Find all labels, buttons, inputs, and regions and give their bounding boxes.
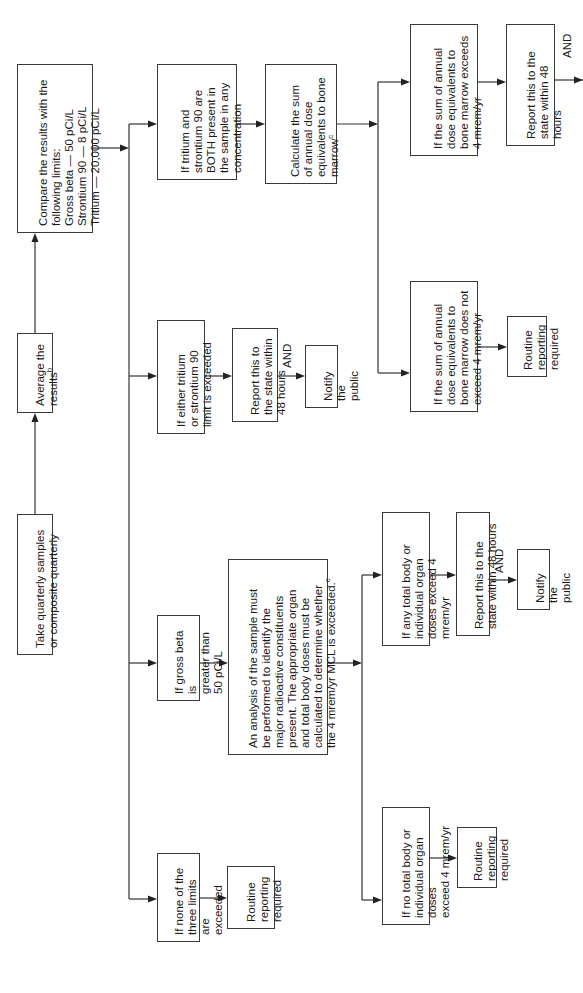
branch-no-total-exceeds-text: If no total body or individual organ dos… <box>400 826 451 918</box>
branch-both-present: If tritium and strontium 90 are BOTH pre… <box>157 64 237 180</box>
branch-bone-not-exceed: If the sum of annual dose equivalents to… <box>410 281 478 412</box>
step-routine-none: Routine reporting required <box>227 866 275 929</box>
branch-either-exceeded-text: If either tritium or strontium 90 limit … <box>175 342 213 427</box>
branch-bone-exceeds-text: If the sum of annual dose equivalents to… <box>432 36 483 149</box>
and-connector-any-total: AND <box>493 549 505 573</box>
step-routine-bone: Routine reporting required <box>507 316 547 377</box>
and-connector-either: AND <box>281 344 293 368</box>
step-report-bone-exceeds: Report this to the state within 48 hours <box>506 24 555 146</box>
flowchart-canvas: Take quarterly samples or composite quar… <box>0 0 583 993</box>
step-routine-no-total-text: Routine reporting required <box>472 836 510 881</box>
step-calculate-sum: Calculate the sum of annual dose equival… <box>265 64 337 184</box>
branch-bone-exceeds: If the sum of annual dose equivalents to… <box>410 24 478 156</box>
step-average: Average the resultsb <box>17 333 53 413</box>
step-report-any-total-text: Report this to the state within 48 hours <box>473 524 498 629</box>
step-analysis-text: An analysis of the sample must be perfor… <box>247 582 337 748</box>
footnote-b: b <box>45 368 54 372</box>
step-report-any-total: Report this to the state within 48 hours <box>456 512 490 636</box>
footnote-c-analysis: c <box>323 578 332 582</box>
and-connector-top-right: AND <box>561 34 573 58</box>
step-take-samples-text: Take quarterly samples or composite quar… <box>34 530 59 648</box>
step-notify-either: Notify the public <box>305 345 338 408</box>
step-analysis: An analysis of the sample must be perfor… <box>228 559 328 755</box>
step-routine-none-text: Routine reporting required <box>245 877 283 922</box>
step-routine-bone-text: Routine reporting required <box>522 325 560 370</box>
step-calculate-sum-text: Calculate the sum of annual dose equival… <box>289 77 340 177</box>
branch-no-total-exceeds: If no total body or individual organ dos… <box>382 807 430 925</box>
branch-bone-not-exceed-text: If the sum of annual dose equivalents to… <box>432 291 483 405</box>
branch-any-total-exceeds: If any total body or individual organ do… <box>382 512 430 646</box>
step-routine-no-total: Routine reporting required <box>457 827 497 888</box>
footnote-c: c <box>326 135 335 139</box>
branch-gross-beta: If gross beta is greater than 50 pCi/L <box>157 615 200 701</box>
step-compare-limits-text: Compare the results with the following l… <box>37 80 101 226</box>
branch-both-present-text: If tritium and strontium 90 are BOTH pre… <box>179 83 243 173</box>
branch-none-exceeded: If none of the three limits are exceeded <box>157 853 200 942</box>
step-report-either: Report this to the state within 48 hours <box>232 328 278 422</box>
step-take-samples: Take quarterly samples or composite quar… <box>17 514 53 655</box>
step-compare-limits: Compare the results with the following l… <box>17 64 93 233</box>
step-notify-any-total: Notify the public <box>517 549 550 610</box>
branch-either-exceeded: If either tritium or strontium 90 limit … <box>157 320 205 434</box>
